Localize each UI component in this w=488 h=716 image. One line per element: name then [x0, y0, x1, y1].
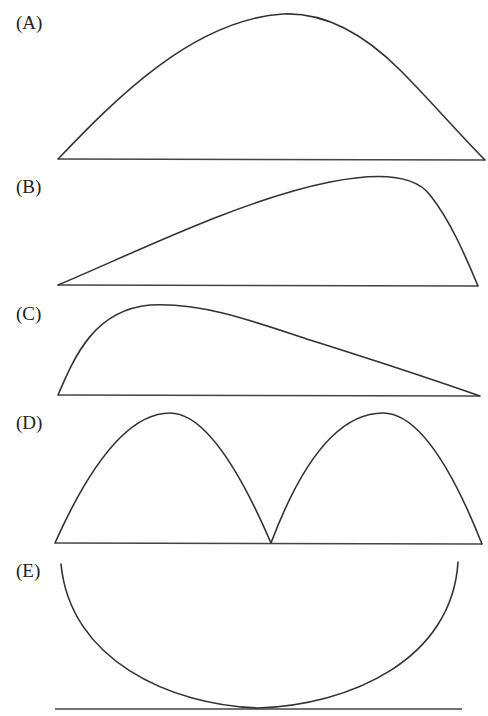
panel-b-label: (B) — [16, 176, 41, 198]
panel-e-graph — [55, 562, 462, 709]
panel-a-baseline — [58, 159, 485, 160]
panel-d-baseline — [55, 543, 482, 544]
diagram-canvas — [0, 0, 488, 716]
panel-d-curve — [55, 413, 482, 544]
panel-d-label: (D) — [16, 412, 42, 434]
panel-b-curve — [58, 176, 478, 286]
panel-b-graph — [58, 176, 478, 286]
panel-a-curve — [58, 14, 485, 160]
panel-b-baseline — [58, 285, 478, 286]
panel-c-label: (C) — [16, 303, 41, 325]
panel-a-label: (A) — [16, 12, 42, 34]
panel-e-label: (E) — [16, 560, 40, 582]
panel-c-graph — [58, 305, 480, 396]
panel-c-baseline — [58, 395, 480, 396]
panel-a-graph — [58, 14, 485, 160]
panel-d-graph — [55, 413, 482, 544]
panel-e-curve — [61, 562, 458, 708]
panel-c-curve — [58, 305, 480, 396]
